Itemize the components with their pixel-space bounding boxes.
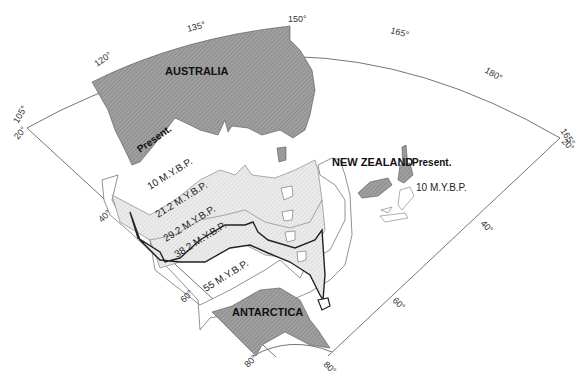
tick-lat-20-left: 20° (12, 124, 29, 141)
tick-150: 150° (288, 14, 307, 24)
australia-landmass (92, 26, 315, 165)
island-tasmania-outline (318, 298, 330, 310)
tick-lat-80-right: 80° (322, 359, 339, 376)
tick-lat-40-right: 40° (479, 218, 496, 235)
tick-lat-60-right: 60° (391, 295, 408, 312)
tick-180: 180° (483, 65, 504, 83)
label-australia: AUSTRALIA (165, 65, 229, 77)
nz-south-island (358, 178, 392, 198)
island (282, 210, 293, 221)
nz-10-mybp-outline (398, 187, 414, 210)
island (277, 147, 286, 162)
label-nz-10-mybp: 10 M.Y.B.P. (416, 182, 467, 193)
label-new-zealand: NEW ZEALAND (332, 156, 413, 168)
tick-135: 135° (186, 19, 207, 34)
label-present-nz: Present. (412, 157, 452, 168)
nz-10-mybp-outline (381, 207, 392, 213)
label-10-mybp: 10 M.Y.B.P. (145, 155, 194, 191)
island (297, 251, 306, 262)
tick-120: 120° (92, 50, 113, 69)
map-figure: AUSTRALIA ANTARCTICA NEW ZEALAND Present… (0, 0, 585, 380)
island (285, 231, 295, 242)
nz-10-mybp-outline (380, 213, 408, 222)
tick-165: 165° (389, 25, 410, 40)
tick-105: 105° (11, 104, 29, 125)
label-antarctica: ANTARCTICA (232, 306, 303, 318)
